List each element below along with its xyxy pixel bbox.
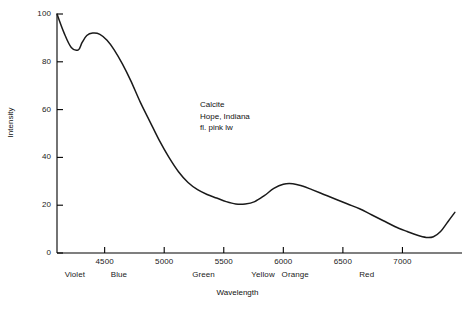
- annotation-line-locality: Hope, Indiana: [200, 111, 250, 123]
- y-axis-title-wrapper: Intensity: [4, 118, 64, 130]
- y-tick-marks: [57, 14, 63, 253]
- x-tick-label: 5000: [139, 257, 189, 266]
- color-band-label: Red: [337, 270, 397, 279]
- x-tick-label: 6500: [318, 257, 368, 266]
- y-tick-label: 40: [9, 152, 51, 161]
- y-tick-label: 0: [9, 248, 51, 257]
- annotation-line-fluorescence: fl. pink lw: [200, 122, 250, 134]
- x-tick-marks: [105, 247, 403, 253]
- x-tick-label: 7000: [377, 257, 427, 266]
- x-tick-label: 6000: [258, 257, 308, 266]
- color-band-label: Blue: [89, 270, 149, 279]
- y-tick-label: 80: [9, 57, 51, 66]
- y-tick-label: 60: [9, 105, 51, 114]
- x-tick-label: 5500: [199, 257, 249, 266]
- color-band-label: Orange: [265, 270, 325, 279]
- y-tick-label: 20: [9, 200, 51, 209]
- x-axis-title: Wavelength: [0, 288, 475, 297]
- spectrum-curve: [57, 14, 455, 238]
- y-tick-label: 100: [9, 9, 51, 18]
- sample-annotation: Calcite Hope, Indiana fl. pink lw: [200, 99, 250, 134]
- axes-group: [57, 14, 462, 253]
- color-band-label: Green: [174, 270, 234, 279]
- annotation-line-mineral: Calcite: [200, 99, 250, 111]
- y-axis-title: Intensity: [6, 93, 15, 153]
- spectrum-chart-figure: 020406080100450050005500600065007000 Vio…: [0, 0, 475, 312]
- x-tick-label: 4500: [80, 257, 130, 266]
